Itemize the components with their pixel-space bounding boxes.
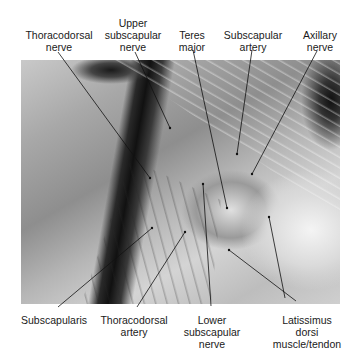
label-subscapular-artery: Subscapular artery <box>220 29 286 53</box>
leader-latissimus-2 <box>269 217 285 298</box>
label-teres-major: Teres major <box>171 29 213 53</box>
label-thoracodorsal-nerve: Thoracodorsal nerve <box>21 29 97 53</box>
label-thoracodorsal-artery: Thoracodorsal artery <box>96 314 172 338</box>
label-lower-subscapular-nerve: Lower subscapular nerve <box>180 314 244 350</box>
leader-subscapular-artery <box>237 50 252 154</box>
leader-teres-major <box>193 50 227 208</box>
leader-lower-subscapular-nerve <box>203 184 211 306</box>
label-latissimus-dorsi: Latissimus dorsi muscle/tendon <box>266 314 348 350</box>
leader-upper-subscapular-nerve <box>135 52 170 128</box>
leader-latissimus-1 <box>229 250 296 301</box>
leader-thoracodorsal-artery <box>137 232 185 307</box>
label-axillary-nerve: Axillary nerve <box>296 29 344 53</box>
leader-thoracodorsal-nerve <box>58 52 150 178</box>
label-subscapularis: Subscapularis <box>18 314 90 326</box>
leader-axillary-nerve <box>252 51 317 174</box>
label-upper-subscapular-nerve: Upper subscapular nerve <box>101 17 165 53</box>
leader-subscapularis <box>58 228 152 307</box>
